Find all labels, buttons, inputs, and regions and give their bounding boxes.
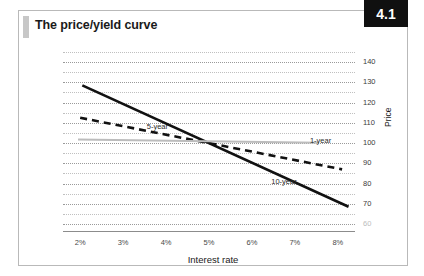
title-accent-bar [23,16,29,38]
x-axis-title: Interest rate [19,254,407,265]
series-line [82,85,348,206]
x-tick-label: 7% [289,238,300,247]
figure-number-badge: 4.1 [364,0,408,27]
y-tick-label: 70 [363,199,371,208]
y-tick-label: 120 [363,98,376,107]
x-tick-label: 6% [247,238,258,247]
y-tick-label: 80 [363,179,371,188]
series-label: 1-year [310,136,331,145]
y-axis-title: Price [383,108,393,127]
y-tick-label: 140 [363,57,376,66]
y-tick-label: 110 [363,118,375,127]
plot-area: 10-year5-year1-year [63,52,355,224]
x-tick-label: 8% [332,238,343,247]
series-label: 10-year [271,177,296,186]
x-tick-label: 2% [75,238,86,247]
y-tick-label: 60 [363,219,371,228]
x-tick-label: 4% [161,238,172,247]
gridline-major [63,224,355,225]
x-tick-label: 3% [118,238,129,247]
figure-card: The price/yield curve 4.1 10-year5-year1… [18,10,408,266]
series-label: 5-year [147,122,168,131]
y-tick-label: 130 [363,77,376,86]
card-header: The price/yield curve 4.1 [19,11,407,42]
series-line [80,118,342,170]
y-tick-label: 100 [363,138,376,147]
x-axis-baseline [63,231,355,232]
y-tick-label: 90 [363,158,371,167]
page-title: The price/yield curve [35,18,157,32]
x-tick-label: 5% [204,238,215,247]
